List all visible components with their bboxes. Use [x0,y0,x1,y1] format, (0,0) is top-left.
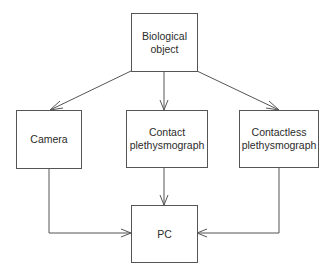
edge-contactless-to-pc [197,167,279,237]
node-contactless-plethysmograph: Contactless plethysmograph [239,110,319,168]
node-label: PC [157,228,172,241]
edge-bio-to-camera [50,71,131,110]
node-camera: Camera [16,110,82,169]
node-label: Camera [30,133,67,146]
node-biological-object: Biological object [131,13,198,72]
node-label: Contact plethysmograph [130,126,205,152]
edge-bio-to-contact [160,71,168,110]
node-pc: PC [131,205,198,263]
arrowhead-icon [50,101,63,110]
arrowhead-icon [266,101,279,110]
node-contact-plethysmograph: Contact plethysmograph [126,110,208,168]
edge-contact-to-pc [160,167,168,205]
node-label: Biological object [142,30,187,56]
node-label: Contactless plethysmograph [242,126,317,152]
edge-camera-to-pc [49,168,131,237]
edge-bio-to-contactless [197,71,279,110]
